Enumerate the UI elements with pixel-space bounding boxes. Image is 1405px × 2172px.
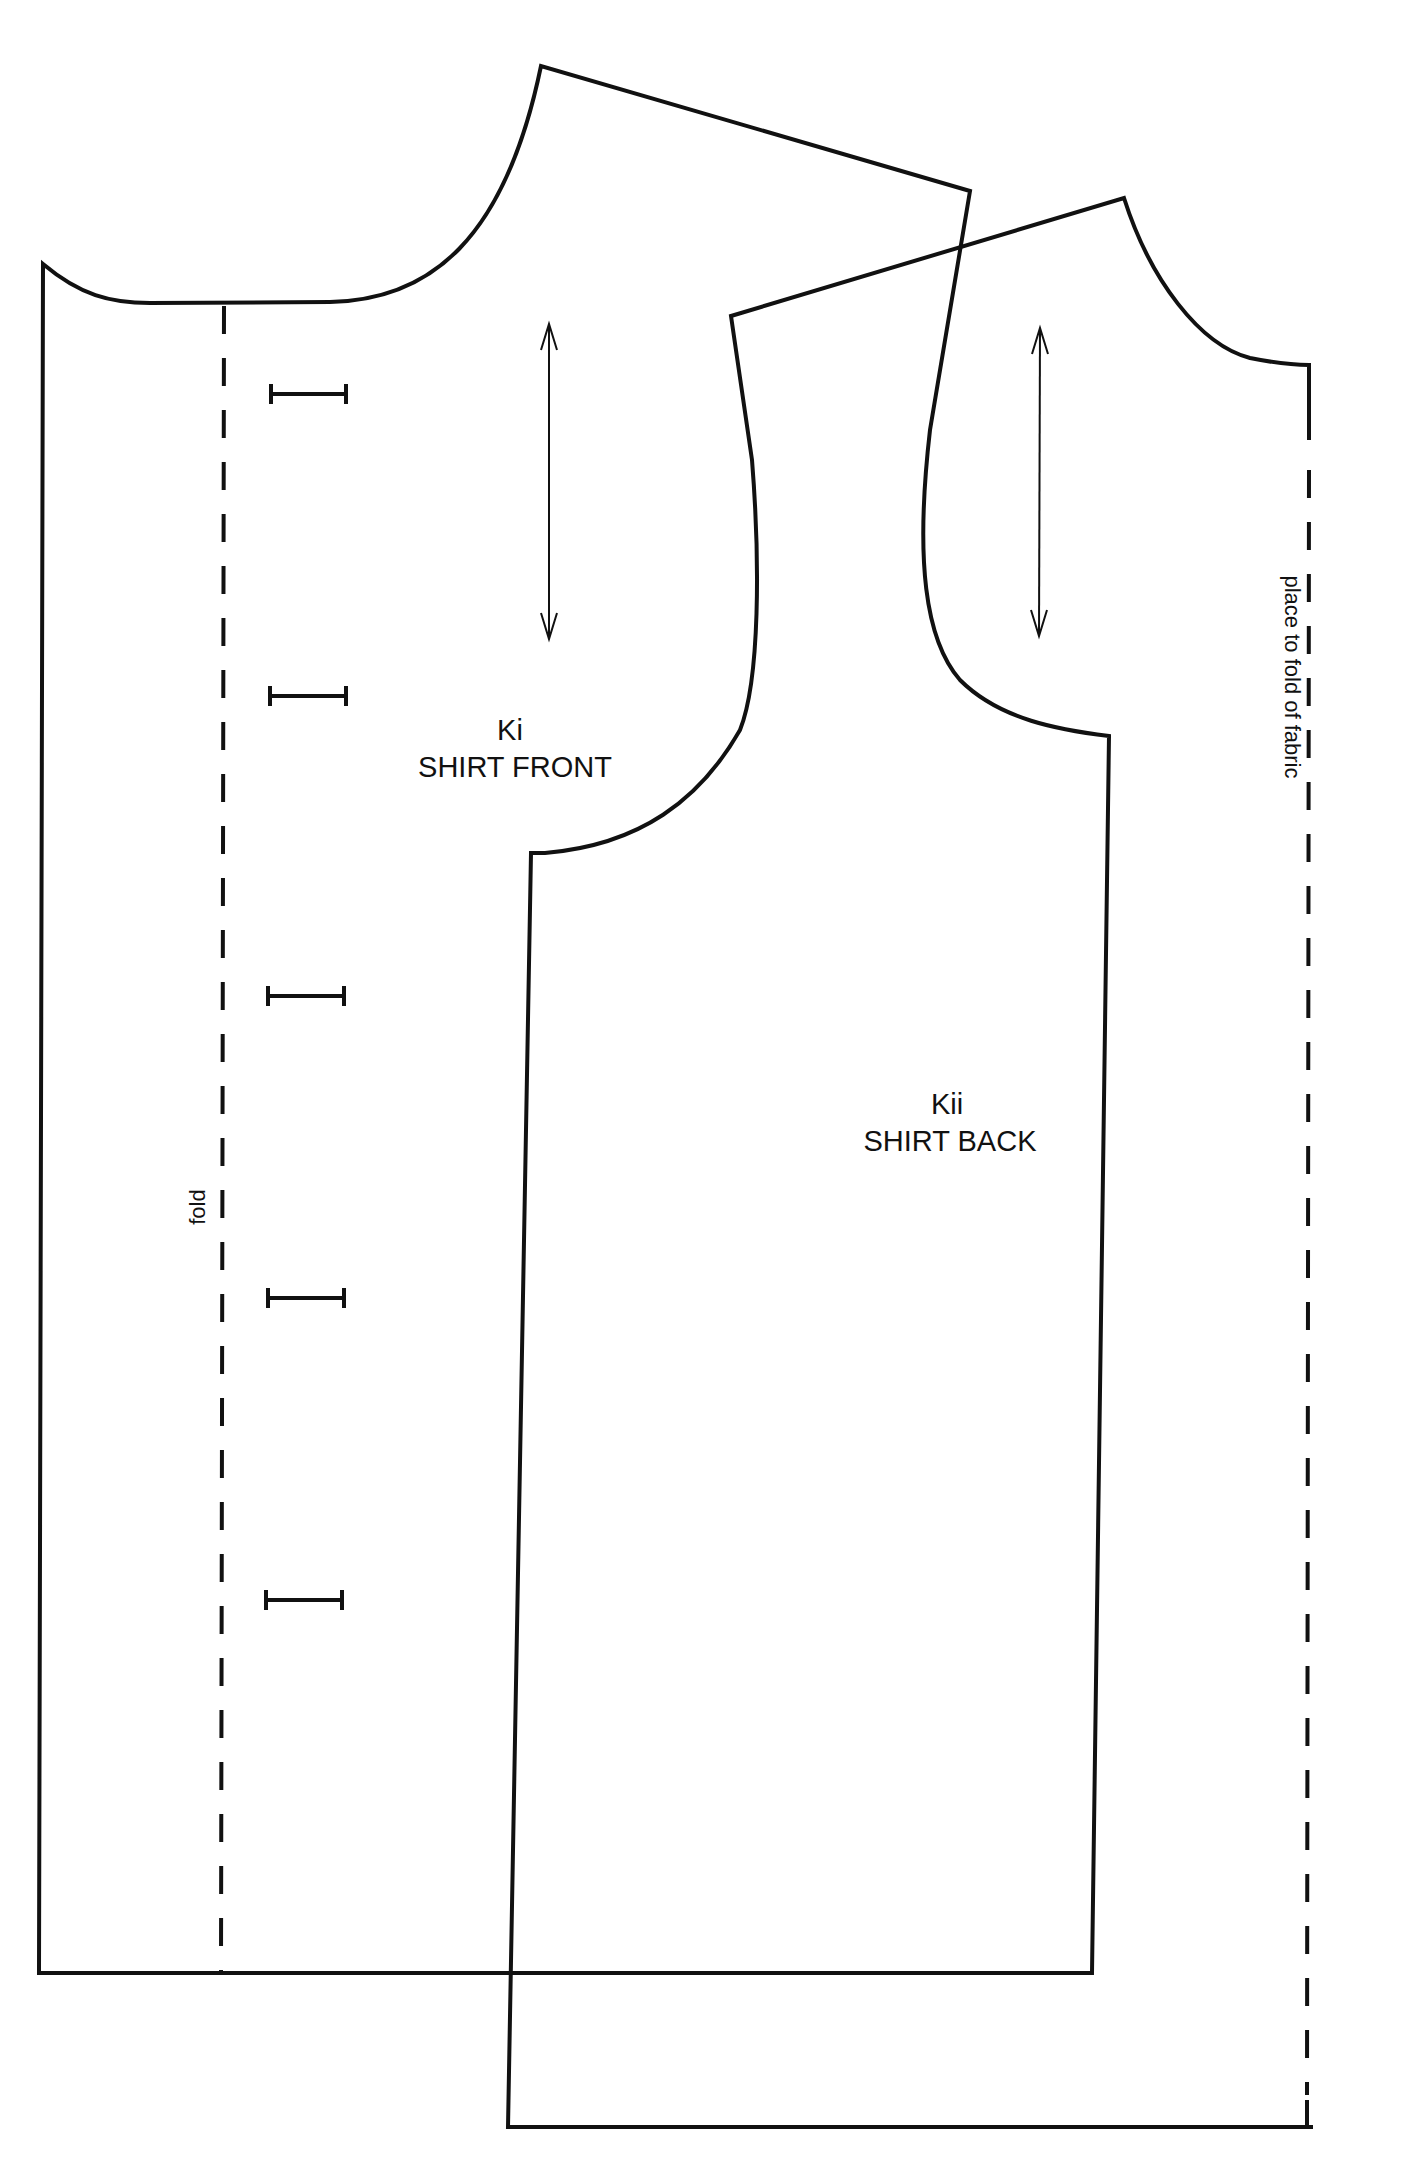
front-grainline-arrow-icon (541, 324, 557, 639)
buttonhole-mark-1 (271, 384, 346, 404)
buttonhole-mark-5 (266, 1590, 342, 1610)
front-piece-code: Ki (460, 713, 560, 748)
back-piece-code: Kii (897, 1087, 997, 1122)
shirt-front-outline (39, 66, 1109, 1973)
back-fold-line (1307, 470, 1309, 2095)
front-piece-name: SHIRT FRONT (390, 750, 640, 785)
buttonhole-mark-4 (268, 1288, 344, 1308)
buttonhole-marks (266, 384, 346, 1610)
back-piece-name: SHIRT BACK (835, 1124, 1065, 1159)
back-grainline-arrow-icon (1031, 328, 1048, 636)
buttonhole-mark-2 (270, 686, 346, 706)
shirt-back-outline (508, 198, 1313, 2127)
buttonhole-mark-3 (268, 986, 344, 1006)
front-fold-line (221, 306, 224, 1973)
back-fold-label: place to fold of fabric (1277, 552, 1305, 802)
sewing-pattern-sheet: Ki SHIRT FRONT Kii SHIRT BACK fold place… (0, 0, 1405, 2172)
front-fold-label: fold (185, 1177, 213, 1237)
pattern-drawing (0, 0, 1405, 2172)
